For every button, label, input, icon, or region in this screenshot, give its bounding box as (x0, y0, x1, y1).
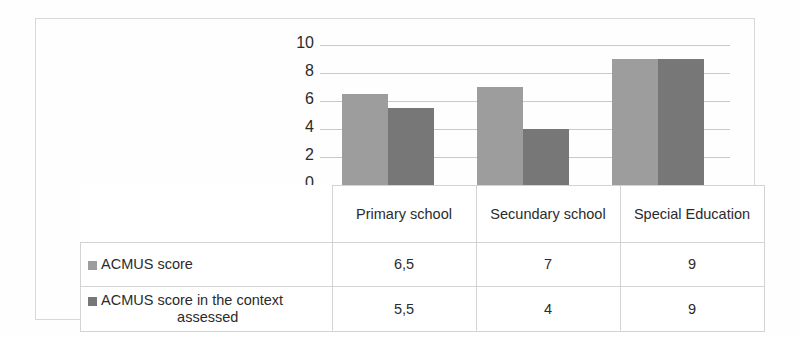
cell-acmus-context-primary-school: 5,5 (332, 287, 476, 332)
cell-acmus-context-secundary-school: 4 (476, 287, 620, 332)
table-row-acmus-score-context: ACMUS score in the contextassessed 5,5 4… (81, 287, 765, 332)
y-tick-6: 6 (272, 91, 314, 107)
bar-acmus-score-secundary-school[interactable] (477, 87, 523, 185)
cell-acmus-score-secundary-school: 7 (476, 243, 620, 287)
column-header-special-education: Special Education (620, 186, 764, 243)
bar-group-secundary-school (455, 45, 590, 185)
legend-label-acmus-score: ACMUS score (101, 256, 193, 272)
chart-plot-area (320, 45, 730, 185)
bar-acmus-score-primary-school[interactable] (342, 94, 388, 185)
table-corner-blank (81, 186, 333, 243)
legend-cell-acmus-score: ACMUS score (81, 243, 333, 287)
legend-swatch-icon-series-2 (88, 297, 97, 306)
cell-acmus-score-primary-school: 6,5 (332, 243, 476, 287)
legend-label-acmus-score-context-line2: assessed (88, 309, 328, 326)
bar-acmus-score-special-education[interactable] (612, 59, 658, 185)
legend-swatch-icon-series-1 (88, 261, 97, 270)
page-background: 10 8 6 4 2 0 Primary school (0, 0, 799, 337)
cell-acmus-score-special-education: 9 (620, 243, 764, 287)
legend-cell-acmus-score-context: ACMUS score in the contextassessed (81, 287, 333, 332)
table-header-row: Primary school Secundary school Special … (81, 186, 765, 243)
y-axis-tick-labels: 10 8 6 4 2 0 (272, 35, 314, 195)
chart-data-table: Primary school Secundary school Special … (80, 185, 765, 332)
bar-acmus-context-primary-school[interactable] (388, 108, 434, 185)
bar-group-special-education (590, 45, 725, 185)
y-tick-10: 10 (272, 35, 314, 51)
table-row-acmus-score: ACMUS score 6,5 7 9 (81, 243, 765, 287)
cell-acmus-context-special-education: 9 (620, 287, 764, 332)
bar-acmus-context-special-education[interactable] (658, 59, 704, 185)
bar-acmus-context-secundary-school[interactable] (523, 129, 569, 185)
bar-group-primary-school (320, 45, 455, 185)
y-tick-4: 4 (272, 119, 314, 135)
column-header-secundary-school: Secundary school (476, 186, 620, 243)
legend-label-acmus-score-context-line1: ACMUS score in the context (101, 292, 283, 308)
column-header-primary-school: Primary school (332, 186, 476, 243)
y-tick-8: 8 (272, 63, 314, 79)
y-tick-2: 2 (272, 147, 314, 163)
